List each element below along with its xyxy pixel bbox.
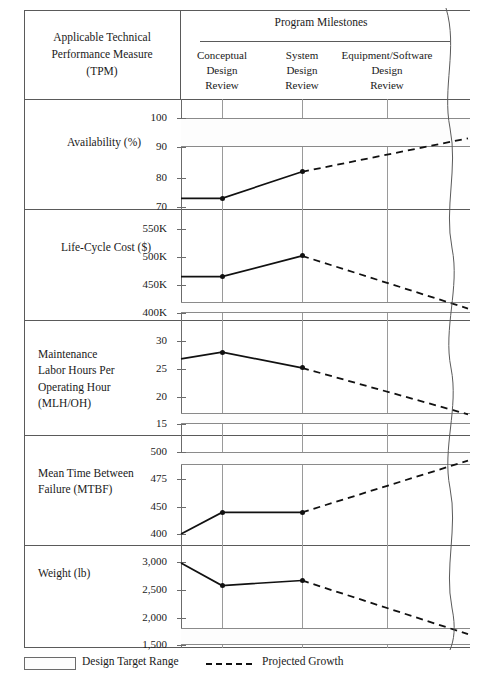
measured-line-0	[181, 172, 302, 199]
data-point-3-0	[220, 510, 225, 515]
milestone-header-conceptual-design-review-line3: Review	[183, 78, 261, 93]
tpm-row-2: MaintenanceLabor Hours PerOperating Hour…	[24, 320, 470, 435]
series-svg-3	[24, 435, 470, 545]
tpm-header-cell: Applicable Technical Performance Measure…	[24, 10, 180, 99]
tpm-header-line2: Performance Measure	[51, 46, 152, 63]
milestone-header-equipment-software-design-review-line2: Design	[322, 63, 452, 78]
data-point-4-0	[220, 583, 225, 588]
tpm-milestone-chart: Applicable Technical Performance Measure…	[0, 0, 494, 677]
tpm-row-0: Availability (%)100908070	[24, 99, 470, 209]
series-svg-4	[24, 545, 470, 648]
tpm-header-line3: (TPM)	[51, 63, 152, 80]
milestone-header-equipment-software-design-review-line3: Review	[322, 78, 452, 93]
tpm-header-line1: Applicable Technical	[51, 29, 152, 46]
milestone-header-equipment-software-design-review-line1: Equipment/Software	[322, 48, 452, 63]
data-point-2-0	[220, 350, 225, 355]
data-point-3-1	[300, 510, 305, 515]
series-svg-0	[24, 99, 470, 209]
tpm-row-4: Weight (lb)3,0002,5002,0001,500	[24, 545, 470, 648]
milestone-header-equipment-software-design-review: Equipment/SoftwareDesignReview	[322, 48, 452, 93]
program-milestones-rule	[200, 41, 450, 42]
program-milestones-title: Program Milestones	[181, 16, 461, 28]
tpm-row-3: Mean Time BetweenFailure (MTBF)500475450…	[24, 435, 470, 545]
design-target-range-label: Design Target Range	[82, 655, 179, 667]
measured-line-1	[181, 256, 302, 277]
measured-line-4	[181, 563, 302, 585]
series-svg-1	[24, 209, 470, 320]
milestone-header-conceptual-design-review: ConceptualDesignReview	[183, 48, 261, 93]
milestone-header-row: ConceptualDesignReviewSystemDesignReview…	[181, 48, 470, 96]
data-point-0-0	[220, 196, 225, 201]
projected-growth-dash-sample	[206, 663, 252, 665]
chart-legend: Design Target Range Projected Growth	[24, 655, 470, 673]
design-target-range-swatch	[24, 657, 76, 670]
data-point-4-1	[300, 578, 305, 583]
chart-table-frame: Applicable Technical Performance Measure…	[24, 10, 470, 648]
data-point-0-1	[300, 169, 305, 174]
measured-line-3	[181, 512, 302, 534]
series-svg-2	[24, 320, 470, 435]
tpm-column-divider	[180, 10, 181, 99]
tpm-row-1: Life-Cycle Cost ($)550K500K450K400K	[24, 209, 470, 320]
projected-growth-label: Projected Growth	[262, 655, 343, 667]
data-point-1-0	[220, 274, 225, 279]
measured-line-2	[181, 352, 302, 368]
milestone-header-conceptual-design-review-line2: Design	[183, 63, 261, 78]
milestone-header-conceptual-design-review-line1: Conceptual	[183, 48, 261, 63]
data-point-2-1	[300, 365, 305, 370]
data-point-1-1	[300, 253, 305, 258]
torn-page-edge	[440, 8, 494, 650]
